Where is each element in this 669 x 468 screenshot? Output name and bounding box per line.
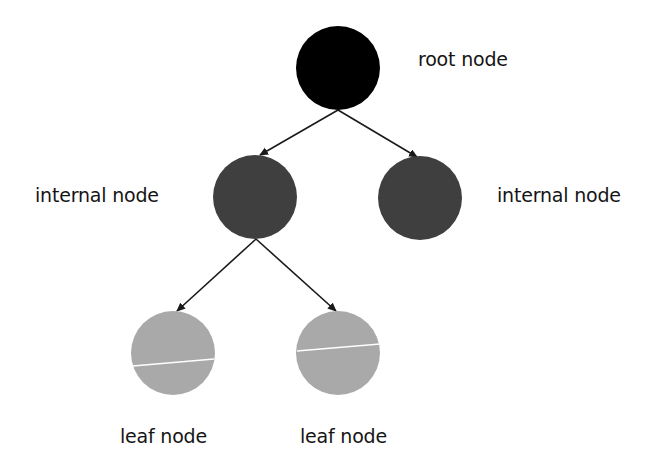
leaf-circle <box>296 311 380 395</box>
node-internal-right <box>378 156 462 240</box>
internal-node-right-label: internal node <box>497 186 621 205</box>
edge-root-to-internal-right <box>338 110 417 157</box>
edge-internal-left-to-leaf-left <box>177 239 256 311</box>
root-circle <box>296 26 380 110</box>
internal-circle <box>213 155 297 239</box>
root-node-label: root node <box>418 50 508 69</box>
leaf-node-left-label: leaf node <box>120 427 207 446</box>
internal-node-left-label: internal node <box>35 186 159 205</box>
leaf-circle <box>131 311 215 395</box>
node-root <box>296 26 380 110</box>
tree-diagram <box>0 0 669 468</box>
node-leaf-right <box>296 311 380 395</box>
edge-root-to-internal-left <box>260 110 338 155</box>
node-internal-left <box>213 155 297 239</box>
nodes <box>131 26 462 395</box>
internal-circle <box>378 156 462 240</box>
leaf-node-right-label: leaf node <box>300 427 387 446</box>
edge-internal-left-to-leaf-right <box>256 239 336 311</box>
node-leaf-left <box>131 311 215 395</box>
